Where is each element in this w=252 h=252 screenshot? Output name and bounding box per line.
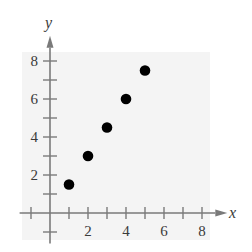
- y-tick-label: 4: [31, 129, 39, 145]
- data-point: [140, 65, 151, 76]
- x-tick-label: 6: [160, 223, 168, 239]
- x-axis-label: x: [228, 204, 236, 221]
- y-axis-label: y: [43, 14, 53, 32]
- x-tick-label: 8: [198, 223, 206, 239]
- data-point: [121, 94, 132, 105]
- x-tick-label: 4: [122, 223, 130, 239]
- y-tick-label: 8: [31, 53, 39, 69]
- y-axis-arrow-icon: [47, 36, 54, 48]
- scatter-chart: 24682468 x y: [0, 0, 252, 252]
- data-point: [83, 151, 94, 162]
- data-point: [102, 122, 113, 133]
- y-tick-label: 6: [31, 91, 39, 107]
- y-tick-label: 2: [31, 167, 39, 183]
- x-tick-label: 2: [84, 223, 92, 239]
- x-axis-arrow-icon: [215, 210, 227, 217]
- data-point: [64, 179, 75, 190]
